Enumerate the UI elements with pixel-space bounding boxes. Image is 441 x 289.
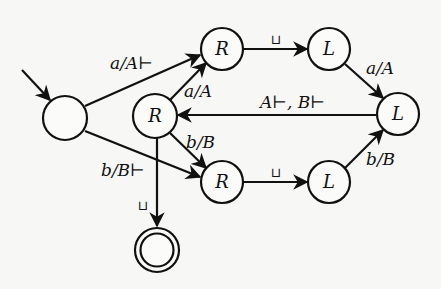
node-l-top-label: L bbox=[322, 38, 335, 59]
node-l-top: L bbox=[308, 28, 350, 70]
label-r-mid-to-r-bot: b/B bbox=[186, 132, 215, 152]
node-r-mid-label: R bbox=[147, 105, 162, 126]
node-r-top-label: R bbox=[214, 38, 229, 59]
node-l-bot-label: L bbox=[322, 171, 335, 192]
node-r-bot: R bbox=[201, 161, 243, 203]
label-l-right-to-r-mid: A⊢, B⊢ bbox=[258, 92, 325, 112]
node-start bbox=[43, 96, 87, 140]
node-r-top: R bbox=[201, 28, 243, 70]
label-r-mid-to-accept: ⊔ bbox=[138, 198, 148, 213]
node-accept bbox=[135, 228, 179, 272]
node-l-right: L bbox=[377, 93, 419, 135]
label-r-top-to-l-top: ⊔ bbox=[271, 32, 281, 47]
label-l-bot-to-l-right: b/B bbox=[366, 149, 395, 169]
node-l-bot: L bbox=[308, 161, 350, 203]
node-l-right-label: L bbox=[391, 103, 404, 124]
state-machine-diagram: R L R L R L a/A⊢ b/B⊢ a/A b/B ⊔ ⊔ a/A b/… bbox=[0, 0, 441, 289]
label-start-to-r-top: a/A⊢ bbox=[110, 53, 153, 73]
initial-arrow bbox=[22, 70, 50, 100]
label-r-mid-to-r-top: a/A bbox=[184, 81, 212, 101]
node-r-bot-label: R bbox=[214, 171, 229, 192]
label-start-to-r-bot: b/B⊢ bbox=[101, 160, 145, 180]
node-r-mid: R bbox=[133, 94, 177, 138]
label-r-bot-to-l-bot: ⊔ bbox=[271, 165, 281, 180]
label-l-top-to-l-right: a/A bbox=[366, 58, 394, 78]
